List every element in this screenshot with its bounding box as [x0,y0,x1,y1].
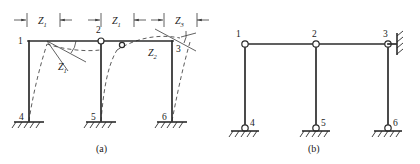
hinge-deflected-marker [119,42,124,47]
deflected-column-left [29,44,47,121]
node-label-5-b: 5 [321,118,326,128]
dimension-row-a: Z1 Z1 Z3 [14,13,209,28]
support-6-a [155,122,187,128]
rotation-leader-1 [47,41,86,62]
rotation-indicator-node-1: Z1 [47,41,86,74]
support-4-a [12,122,44,128]
hinge-node-1-b [242,41,248,47]
node-label-3-a: 3 [176,44,181,54]
dim-label-right: Z3 [175,15,185,28]
node-label-2-a: 2 [96,25,101,35]
node-label-2-b: 2 [312,29,317,39]
support-5-a [84,122,116,128]
node-label-6-a: 6 [162,112,167,122]
rotation-arc-3 [184,31,186,43]
support-6-b [372,131,402,137]
rotation-label-2: Z2 [148,47,158,60]
frame-members-b [245,44,388,128]
dim-label-middle: Z1 [112,15,121,28]
node-label-4-b: 4 [250,118,255,128]
node-label-1-b: 1 [236,29,241,39]
panel-a: Z1 Z1 Z3 [12,13,209,155]
node-label-3-b: 3 [383,29,388,39]
rotation-arc-1 [71,41,76,53]
rotation-pointer-3 [181,33,196,37]
hinge-node-2-b [313,41,319,47]
dimension-right: Z3 [151,13,209,28]
support-5-b [300,131,330,137]
frame-diagram-svg: Z1 Z1 Z3 [0,0,420,164]
node-label-5-a: 5 [91,112,96,122]
rotation-label-1: Z1 [58,61,67,74]
panel-b: 1 2 3 4 5 6 ( [229,29,403,155]
figure-root: Z1 Z1 Z3 [0,0,420,164]
node-label-4-a: 4 [19,112,24,122]
dimension-left: Z1 [14,13,72,28]
caption-b: (b) [308,143,320,155]
support-4-b [229,131,259,137]
dim-label-left: Z1 [38,15,47,28]
deflected-column-right [172,42,190,121]
caption-a: (a) [96,143,107,155]
node-label-6-b: 6 [393,118,398,128]
hinge-node-2-a [98,38,104,44]
deflected-column-middle [101,50,117,121]
node-label-1-a: 1 [18,36,23,46]
deflected-shape-a [29,36,190,121]
